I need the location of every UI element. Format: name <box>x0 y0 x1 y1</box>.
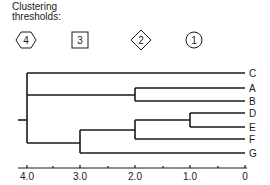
leaf-label-g: G <box>249 148 257 159</box>
leaf-label-c: C <box>249 68 256 79</box>
svg-text:2: 2 <box>138 35 144 46</box>
leaf-label-e: E <box>249 122 256 133</box>
svg-text:4: 4 <box>23 35 29 46</box>
svg-text:1: 1 <box>191 35 197 46</box>
leaf-label-a: A <box>249 83 256 94</box>
leaf-label-f: F <box>249 134 255 145</box>
svg-text:3: 3 <box>77 35 83 46</box>
threshold-2-diamond-icon: 2 <box>131 30 151 50</box>
axis-tick-0: 0 <box>242 171 248 182</box>
axis-tick-1: 1.0 <box>183 171 197 182</box>
dendrogram-tree <box>18 73 245 153</box>
axis-tick-4: 4.0 <box>20 171 34 182</box>
x-axis <box>18 165 247 168</box>
axis-tick-3: 3.0 <box>73 171 87 182</box>
dendrogram-figure: 4 3 2 1 C A <box>0 0 270 185</box>
leaf-label-b: B <box>249 96 256 107</box>
axis-tick-2: 2.0 <box>128 171 142 182</box>
leaf-label-d: D <box>249 108 256 119</box>
threshold-1-circle-icon: 1 <box>186 32 202 48</box>
threshold-3-square-icon: 3 <box>72 32 88 48</box>
threshold-4-hexagon-icon: 4 <box>16 32 36 48</box>
